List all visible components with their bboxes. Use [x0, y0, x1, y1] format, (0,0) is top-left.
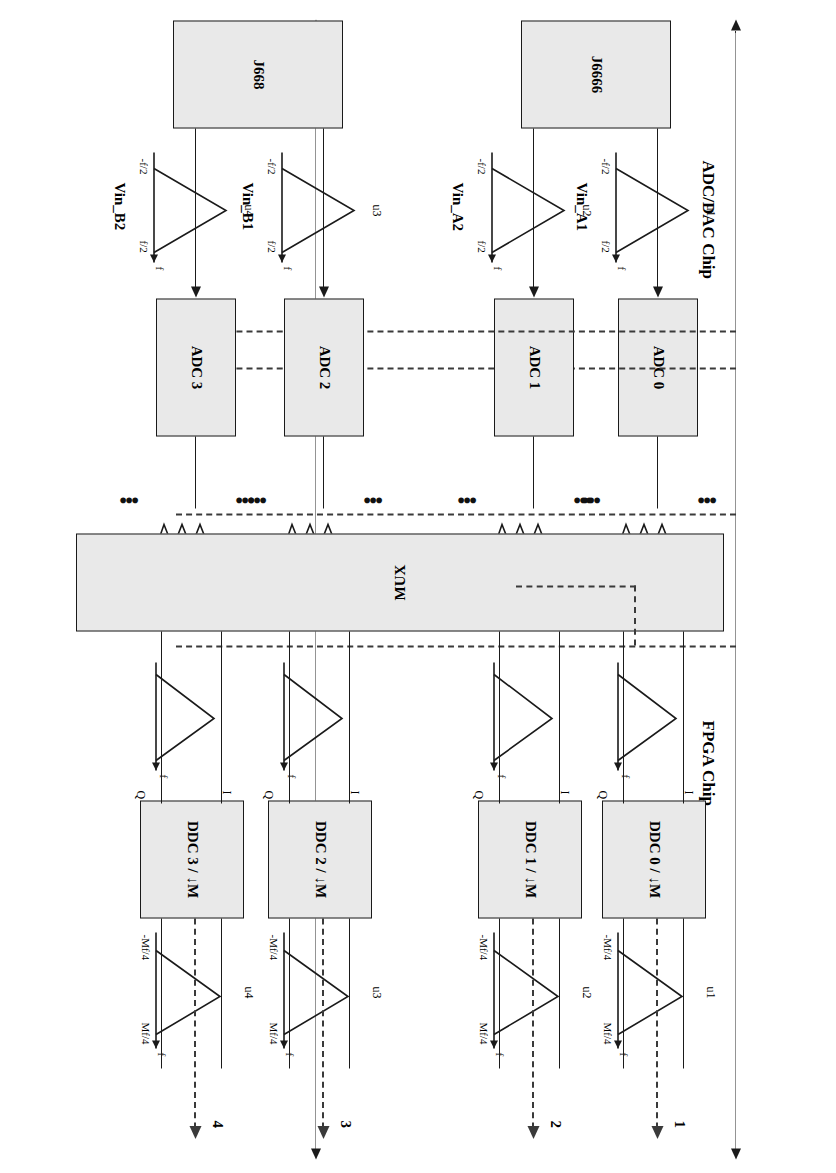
output-spectrum-u1-axis-label: f — [618, 1052, 630, 1056]
input-spectrum-u4-axis-label: f — [154, 266, 166, 270]
divider-mid-right-arrow — [311, 1148, 321, 1159]
mux-to-ddc-rail-0b — [623, 631, 624, 803]
signal-vin-b1-arrow — [319, 286, 329, 297]
output-bus-4 — [194, 918, 196, 1128]
input-spectrum-u3-tick-low: -f/2 — [266, 158, 278, 174]
adc-block-2-label: ADC 2 — [316, 345, 333, 389]
adc-block-1[interactable]: ADC 1 — [494, 298, 574, 436]
adc-output-spectrum-3-replicas-bottom: ••• — [120, 496, 138, 507]
ddc-block-3-label: DDC 3 / ↓M — [184, 820, 201, 897]
ddc-out-rail-2a — [349, 918, 350, 1068]
divider-right-arrow — [731, 1148, 741, 1159]
connector-j668-label: J668 — [250, 59, 267, 89]
output-spectrum-u3-source: u3 — [369, 986, 384, 998]
output-spectrum-u1-tick-high: Mf/4 — [602, 1022, 614, 1044]
output-bus-4-arrow — [190, 1126, 202, 1139]
mux-block-label: MUX — [392, 564, 409, 600]
connector-j668[interactable]: J668 — [173, 20, 343, 128]
iq-label-q-1: Q — [471, 790, 486, 799]
output-bus-2 — [532, 918, 534, 1128]
adc-output-spectrum-1-replicas-top: ••• — [574, 496, 592, 507]
input-spectrum-u4-source: u4 — [241, 204, 256, 216]
output-spectrum-u4-tick-high: Mf/4 — [140, 1022, 152, 1044]
input-spectrum-u2-source: u2 — [579, 204, 594, 216]
input-label-vin-b2: Vin_B2 — [111, 182, 128, 230]
output-spectrum-u1-source: u1 — [703, 986, 718, 998]
ddc-block-0[interactable]: DDC 0 / ↓M — [602, 800, 706, 918]
input-spectrum-u1-tick-high: f/2 — [600, 240, 612, 252]
adc-output-spectrum-1-replicas-bottom: ••• — [458, 496, 476, 507]
mux-to-ddc-rail-1b — [499, 631, 500, 803]
input-spectrum-u2-tick-low: -f/2 — [476, 158, 488, 174]
input-spectrum-u3-tick-high: f/2 — [266, 240, 278, 252]
signal-vin-b2 — [195, 128, 196, 288]
output-spectrum-u2-tick-high: Mf/4 — [478, 1022, 490, 1044]
adc-block-2[interactable]: ADC 2 — [284, 298, 364, 436]
input-spectrum-u3-axis-label: f — [282, 266, 294, 270]
signal-vin-a2-arrow — [529, 286, 539, 297]
output-bus-2-arrow — [528, 1126, 540, 1139]
output-label-2: 2 — [547, 1120, 564, 1128]
dashed-bus-ch4 — [176, 513, 736, 515]
signal-vin-b2-arrow — [191, 286, 201, 297]
signal-vin-b1 — [323, 128, 324, 288]
input-spectrum-u2-axis-label: f — [492, 266, 504, 270]
ddc-out-rail-3b — [161, 918, 162, 1068]
mux-to-ddc-rail-2b — [289, 631, 290, 803]
mux-to-ddc-rail-2a — [349, 631, 350, 803]
input-spectrum-u2-tick-high: f/2 — [476, 240, 488, 252]
mux-to-ddc-rail-1a — [559, 631, 560, 803]
output-bus-3-arrow — [318, 1126, 330, 1139]
dashed-bus-ch4b — [176, 645, 736, 647]
output-spectrum-u2-source: u2 — [579, 986, 594, 998]
iq-label-q-2: Q — [261, 790, 276, 799]
dashed-bus-ch1 — [176, 367, 736, 369]
output-label-1: 1 — [671, 1120, 688, 1128]
output-bus-1-arrow — [652, 1126, 664, 1139]
ddc-out-rail-2b — [289, 918, 290, 1068]
mux-to-ddc-rail-3b — [161, 631, 162, 803]
mux-block[interactable]: MUX — [76, 533, 724, 631]
divider-left-arrow — [731, 19, 741, 30]
output-spectrum-u4-axis-label: f — [156, 1052, 168, 1056]
ddc-block-0-label: DDC 0 / ↓M — [646, 820, 663, 897]
input-spectrum-u1-tick-low: -f/2 — [600, 158, 612, 174]
mux-to-ddc-rail-0a — [683, 631, 684, 803]
ddc-block-3[interactable]: DDC 3 / ↓M — [140, 800, 244, 918]
adc-output-spectrum-3-replicas-top: ••• — [236, 496, 254, 507]
ddc-out-rail-1b — [499, 918, 500, 1068]
output-spectrum-u2-tick-low: -Mf/4 — [478, 934, 490, 960]
output-bus-1 — [656, 918, 658, 1128]
connector-j6666-label: J6666 — [588, 55, 605, 93]
ddc-block-2[interactable]: DDC 2 / ↓M — [268, 800, 372, 918]
ddc-out-rail-3a — [221, 918, 222, 1068]
output-spectrum-u3-axis-label: f — [284, 1052, 296, 1056]
mux-internal-dash-v — [516, 585, 636, 587]
adc-output-spectrum-0-replicas-top: ••• — [698, 496, 716, 507]
connector-j6666[interactable]: J6666 — [521, 20, 671, 128]
adc-output-spectrum-2-replicas-top: ••• — [364, 496, 382, 507]
output-spectrum-u1-tick-low: -Mf/4 — [602, 934, 614, 960]
adc-block-3[interactable]: ADC 3 — [156, 298, 236, 436]
input-spectrum-u3-source: u3 — [369, 204, 384, 216]
input-spectrum-u1-axis-label: f — [616, 266, 628, 270]
iq-label-q-3: Q — [133, 790, 148, 799]
output-spectrum-u3-tick-high: Mf/4 — [268, 1022, 280, 1044]
output-label-3: 3 — [337, 1120, 354, 1128]
ddc-block-1[interactable]: DDC 1 / ↓M — [478, 800, 582, 918]
ddc-out-rail-0a — [683, 918, 684, 1068]
input-spectrum-u4-tick-high: f/2 — [138, 240, 150, 252]
signal-vin-a2 — [533, 128, 534, 288]
input-spectrum-u4-tick-low: -f/2 — [138, 158, 150, 174]
signal-vin-a1 — [657, 128, 658, 288]
ddc-block-2-label: DDC 2 / ↓M — [312, 820, 329, 897]
output-bus-3 — [322, 918, 324, 1128]
ddc-out-rail-0b — [623, 918, 624, 1068]
dashed-bus-ch2 — [176, 330, 736, 332]
ddc-out-rail-1a — [559, 918, 560, 1068]
adc-block-3-label: ADC 3 — [188, 345, 205, 389]
signal-vin-a1-arrow — [653, 286, 663, 297]
output-spectrum-u3-tick-low: -Mf/4 — [268, 934, 280, 960]
output-spectrum-u4-source: u4 — [241, 986, 256, 998]
adc-block-1-label: ADC 1 — [526, 345, 543, 389]
